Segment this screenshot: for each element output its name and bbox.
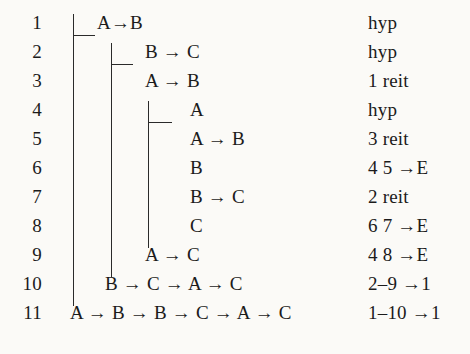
formula-cell: B → C → A → C (105, 269, 243, 298)
justification-cell: 2 reit (368, 182, 409, 211)
formula-cell: A → B → B → C → A → C (70, 298, 292, 327)
formula-cell: A (190, 95, 204, 124)
fitch-proof-figure: 1 A→B hyp 2 B → C hyp 3 A → B 1 reit 4 A… (0, 0, 470, 354)
proof-row: 6 B 4 5 →E (0, 153, 470, 182)
line-number: 11 (0, 298, 42, 327)
line-number: 3 (0, 66, 42, 95)
proof-row: 2 B → C hyp (0, 37, 470, 66)
proof-row: 8 C 6 7 →E (0, 211, 470, 240)
proof-row: 9 A → C 4 8 →E (0, 240, 470, 269)
line-number: 8 (0, 211, 42, 240)
proof-row: 7 B → C 2 reit (0, 182, 470, 211)
proof-row: 5 A → B 3 reit (0, 124, 470, 153)
proof-row: 3 A → B 1 reit (0, 66, 470, 95)
justification-cell: 4 5 →E (368, 153, 428, 182)
formula-cell: A → B (190, 124, 245, 153)
formula-cell: B (190, 153, 203, 182)
line-number: 1 (0, 8, 42, 37)
justification-cell: 1 reit (368, 66, 409, 95)
justification-cell: hyp (368, 95, 397, 124)
line-number: 2 (0, 37, 42, 66)
formula-cell: C (190, 211, 203, 240)
line-number: 5 (0, 124, 42, 153)
justification-cell: 3 reit (368, 124, 409, 153)
formula-cell: A→B (97, 8, 143, 37)
proof-row: 4 A hyp (0, 95, 470, 124)
justification-cell: 4 8 →E (368, 240, 428, 269)
line-number: 7 (0, 182, 42, 211)
line-number: 4 (0, 95, 42, 124)
justification-cell: 6 7 →E (368, 211, 428, 240)
formula-cell: B → C (190, 182, 245, 211)
line-number: 10 (0, 269, 42, 298)
line-number: 6 (0, 153, 42, 182)
formula-cell: A → C (145, 240, 200, 269)
formula-cell: B → C (145, 37, 200, 66)
proof-row: 10 B → C → A → C 2–9 →1 (0, 269, 470, 298)
justification-cell: hyp (368, 8, 397, 37)
justification-cell: 1–10 →1 (368, 298, 441, 327)
line-number: 9 (0, 240, 42, 269)
proof-row: 11 A → B → B → C → A → C 1–10 →1 (0, 298, 470, 327)
proof-row: 1 A→B hyp (0, 8, 470, 37)
formula-cell: A → B (145, 66, 200, 95)
justification-cell: hyp (368, 37, 397, 66)
justification-cell: 2–9 →1 (368, 269, 431, 298)
